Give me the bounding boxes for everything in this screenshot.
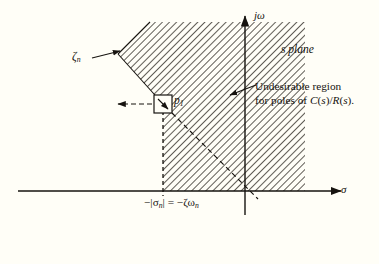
imaginary-axis-label: jω [254,9,265,21]
s-plane-figure: s plane jω σ ζn p1 Undesirable region fo… [0,0,379,264]
undesirable-line-1: Undesirable region [255,80,341,92]
undesirable-line-2-prefix: for poles of [255,94,310,106]
zeta-label: ζn [72,50,81,64]
pole-label: p1 [174,94,184,108]
pole-p1-marker [154,95,172,113]
real-axis-label: σ [341,183,346,195]
zeta-leader-arrow [92,51,120,58]
undesirable-region-label: Undesirable region for poles of C(s)/R(s… [255,79,354,107]
s-plane-label: s plane [281,43,314,55]
sigma-value-label: −|σn| = −ζωn [144,196,199,210]
figure-canvas [0,0,379,264]
